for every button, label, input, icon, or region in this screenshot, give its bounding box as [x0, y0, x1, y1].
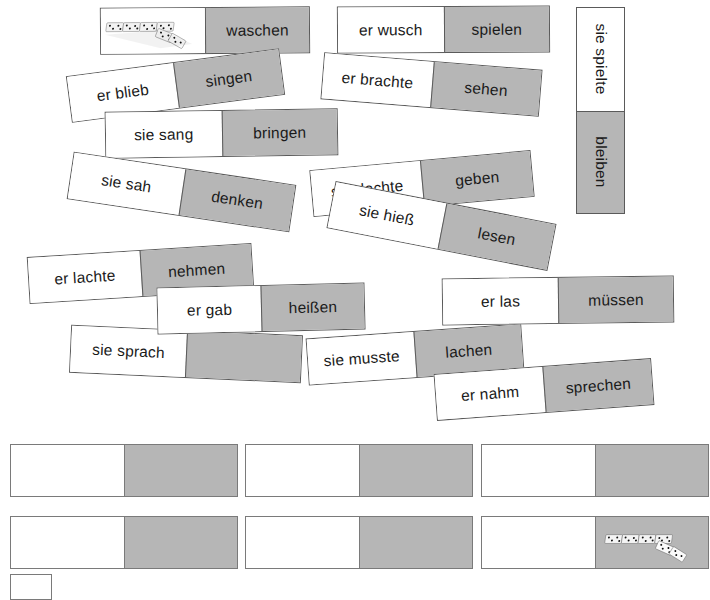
- blank-template-card[interactable]: [245, 444, 473, 497]
- card-label-gray: müssen: [588, 290, 644, 309]
- card-label-white: sie sang: [134, 125, 194, 144]
- blank-half-white[interactable]: [11, 517, 124, 568]
- domino-card[interactable]: er wusch spielen: [337, 5, 550, 53]
- card-label-gray: waschen: [226, 21, 289, 39]
- blank-half-gray[interactable]: [124, 445, 237, 496]
- card-label-white: sie musste: [323, 347, 400, 370]
- card-label-white: er blieb: [96, 80, 150, 105]
- card-half-gray: heißen: [260, 283, 364, 331]
- card-half-white: er gab: [157, 286, 261, 334]
- card-label-gray: nehmen: [168, 259, 226, 281]
- card-label-gray: lesen: [476, 224, 517, 249]
- card-half-white: er wusch: [338, 7, 444, 53]
- card-label-gray: sprechen: [565, 374, 632, 397]
- card-label-white: er nahm: [460, 382, 519, 404]
- card-half-gray: sehen: [430, 62, 542, 116]
- card-label-white: er lachte: [54, 266, 116, 288]
- blank-half-gray[interactable]: [124, 517, 237, 568]
- blank-half-gray[interactable]: [359, 445, 472, 496]
- domino-card[interactable]: er brachte sehen: [320, 52, 542, 116]
- page-corner-stub: [10, 574, 52, 600]
- card-label-gray: lachen: [445, 340, 493, 361]
- card-half-gray: bleiben: [577, 111, 624, 214]
- card-half-gray: geben: [420, 151, 534, 206]
- domino-card[interactable]: sie sang bringen: [105, 108, 339, 159]
- card-half-gray: spielen: [443, 6, 549, 52]
- card-half-gray: waschen: [205, 7, 309, 53]
- card-half-white: sie sah: [68, 153, 185, 215]
- card-label-white: sie hieß: [358, 201, 416, 229]
- card-half-white: er lachte: [28, 251, 142, 303]
- card-half-white: [101, 8, 205, 54]
- card-label-white: sie sprach: [92, 341, 165, 362]
- card-half-white: sie sang: [106, 111, 222, 158]
- blank-template-card[interactable]: [245, 516, 473, 569]
- card-half-gray: lesen: [437, 203, 555, 269]
- domino-tiles-photo-icon: [101, 8, 205, 54]
- card-label-gray: sehen: [464, 78, 509, 99]
- domino-tiles-photo-icon: [596, 517, 708, 568]
- blank-template-card[interactable]: [10, 516, 238, 569]
- card-label-white: sie spielte: [592, 24, 610, 95]
- blank-half-white[interactable]: [246, 517, 359, 568]
- card-label-gray: heißen: [288, 298, 337, 317]
- blank-half-gray[interactable]: [359, 517, 472, 568]
- blank-half-white[interactable]: [482, 517, 595, 568]
- card-label-white: sie sah: [100, 171, 153, 196]
- card-half-gray: denken: [178, 169, 295, 231]
- card-label-gray: geben: [454, 168, 500, 190]
- card-half-gray: bringen: [221, 109, 337, 156]
- card-half-gray: müssen: [558, 277, 674, 323]
- blank-template-card[interactable]: [481, 444, 709, 497]
- domino-card[interactable]: sie sah denken: [67, 152, 297, 233]
- card-half-white: er las: [443, 278, 559, 324]
- card-label-gray: spielen: [471, 20, 522, 38]
- card-half-gray: [185, 331, 302, 382]
- card-label-gray: bringen: [253, 123, 306, 142]
- card-half-white: sie musste: [307, 332, 417, 384]
- blank-half-gray[interactable]: [595, 517, 708, 568]
- blank-half-gray[interactable]: [595, 445, 708, 496]
- blank-half-white[interactable]: [246, 445, 359, 496]
- card-label-gray: singen: [204, 67, 253, 91]
- domino-card-vertical[interactable]: sie spielte bleiben: [576, 7, 625, 214]
- card-label-gray: denken: [210, 188, 264, 213]
- domino-card[interactable]: er gab heißen: [156, 282, 365, 334]
- card-half-white: sie spielte: [577, 8, 624, 111]
- card-label-white: er las: [481, 292, 520, 310]
- domino-card[interactable]: er las müssen: [442, 276, 675, 326]
- blank-half-white[interactable]: [11, 445, 124, 496]
- card-label-white: er gab: [187, 300, 233, 319]
- card-label-gray: bleiben: [592, 137, 610, 188]
- card-half-gray: sprechen: [542, 359, 653, 412]
- card-half-white: er brachte: [322, 53, 434, 107]
- card-half-white: er nahm: [435, 367, 546, 420]
- card-half-gray: singen: [173, 49, 284, 108]
- card-label-white: er wusch: [359, 21, 423, 39]
- blank-template-card[interactable]: [481, 516, 709, 569]
- blank-half-white[interactable]: [482, 445, 595, 496]
- card-label-white: er brachte: [341, 68, 414, 92]
- blank-template-card[interactable]: [10, 444, 238, 497]
